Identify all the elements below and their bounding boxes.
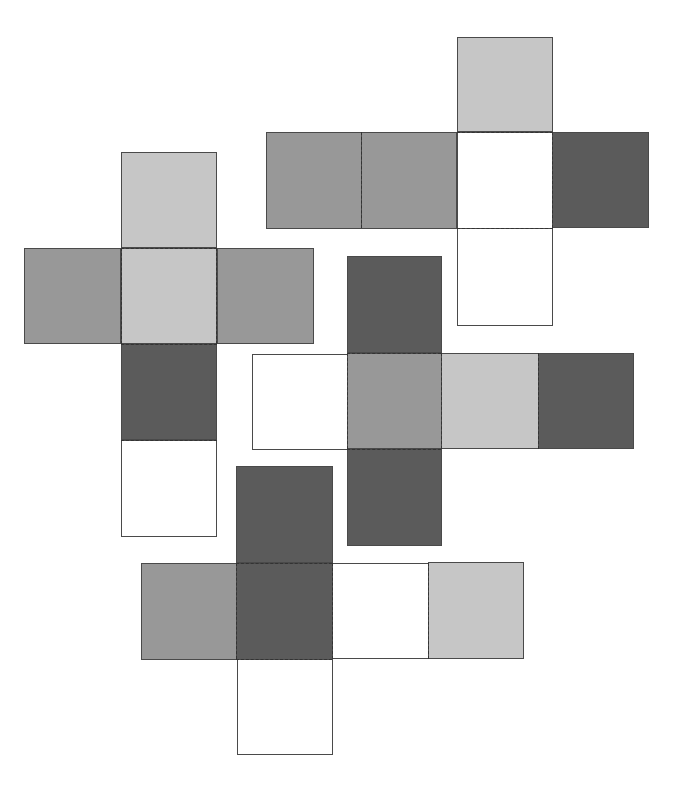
cube-face-white: [237, 659, 333, 755]
fold-line: [428, 563, 429, 659]
cube-face-dark: [236, 466, 333, 563]
fold-line: [236, 659, 332, 660]
fold-line: [236, 563, 237, 659]
cube-face-medium: [141, 563, 237, 660]
cube-face-dark: [236, 563, 333, 660]
cube-face-light: [428, 562, 524, 659]
net-bottom: [0, 0, 676, 790]
fold-line: [236, 563, 332, 564]
fold-line: [332, 563, 333, 659]
cube-face-white: [332, 563, 429, 659]
